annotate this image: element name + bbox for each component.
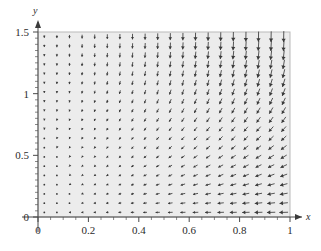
vector-arrow-dot [43,147,45,149]
x-axis-arrowhead [295,214,302,220]
vector-arrow [43,193,45,195]
vector-arrow-dot [43,156,45,158]
vector-arrow-dot [56,211,58,213]
vector-arrow [43,156,45,158]
vector-arrow [69,193,71,195]
direction-field-figure: x y 00.20.40.60.8100.511.5 [0,0,321,251]
x-axis-label: x [305,211,311,222]
vector-arrow [56,156,58,158]
vector-arrow-dot [43,211,45,213]
vector-arrow-dot [43,174,45,176]
vector-arrow-dot [56,156,58,158]
vector-arrow [43,202,45,204]
vector-arrow-dot [56,202,58,204]
x-axis-ticklabel: 0.2 [82,224,96,236]
vector-arrow [69,202,71,204]
y-axis-ticklabel: 0 [24,211,30,223]
vector-arrow [56,211,58,213]
vector-arrow-dot [56,174,58,176]
vector-arrow-dot [69,193,71,195]
x-axis-ticklabel: 0 [35,224,41,236]
vector-arrow [43,147,45,149]
vector-arrow-dot [43,165,45,167]
direction-field-svg: x y 00.20.40.60.8100.511.5 [0,0,321,251]
x-axis-ticklabel: 0.8 [233,224,247,236]
plot-background [38,32,290,217]
y-axis-arrowhead [35,20,41,28]
vector-arrow-dot [43,137,45,139]
vector-arrow [43,137,45,139]
vector-arrow-dot [43,193,45,195]
vector-arrow [43,211,45,213]
x-axis-ticklabel: 1 [287,224,293,236]
vector-arrow [43,184,45,186]
vector-arrow [56,184,58,186]
vector-arrow-dot [69,202,71,204]
y-axis-label: y [32,5,38,16]
vector-arrow-dot [43,184,45,186]
y-axis-ticklabel: 1.5 [15,26,29,38]
vector-arrow [56,193,58,195]
vector-arrow [43,174,45,176]
vector-arrow-dot [56,184,58,186]
vector-arrow [56,174,58,176]
x-axis-ticklabel: 0.4 [132,224,146,236]
vector-arrow [56,202,58,204]
vector-arrow-dot [56,193,58,195]
y-axis-ticklabel: 1 [24,88,30,100]
vector-arrow-dot [56,165,58,167]
x-axis-ticklabel: 0.6 [182,224,196,236]
vector-arrow-dot [43,202,45,204]
vector-arrow [43,165,45,167]
y-axis-ticklabel: 0.5 [15,149,29,161]
vector-arrow [56,165,58,167]
